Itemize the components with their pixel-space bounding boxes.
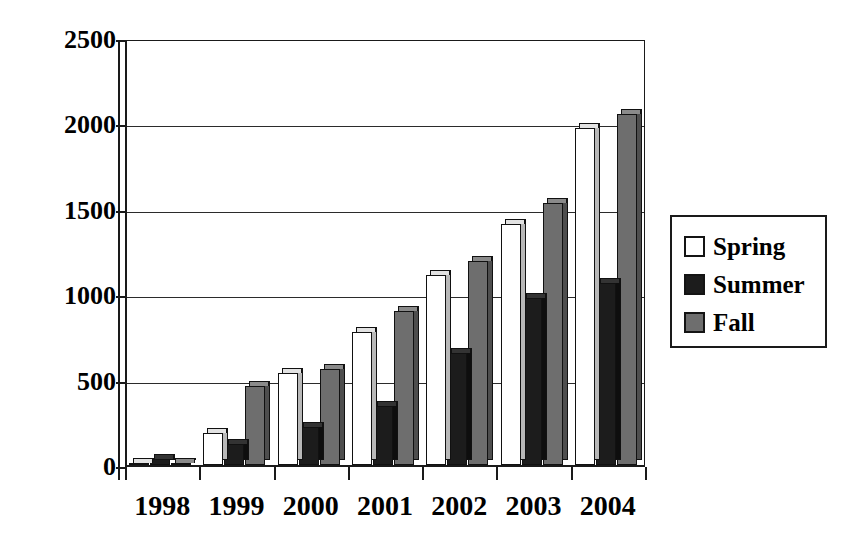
bar-spring-1998 [129,463,149,465]
x-axis-tick-label-1998: 1998 [134,492,190,520]
x-axis-tick-label-2000: 2000 [283,492,339,520]
x-axis-tick-mark [199,467,201,480]
x-axis-tick-mark [125,467,127,480]
bar-side-face [319,422,324,460]
x-axis-tick-label-1999: 1999 [208,492,264,520]
bar-front-face [426,275,446,465]
legend-item-fall: Fall [684,303,825,341]
x-axis-tick-mark [645,467,647,480]
bar-spring-2001 [352,332,372,465]
y-axis-tick-label: 1000 [16,283,116,309]
bar-front-face [575,128,595,465]
bar-front-face [129,463,149,465]
bar-side-face [595,123,600,460]
y-axis-spine [118,40,120,480]
legend-label-fall: Fall [713,310,755,335]
x-axis-tick-label-2003: 2003 [506,492,562,520]
legend-swatch-fall [684,312,705,333]
bar-spring-1999 [203,433,223,465]
bar-side-face [414,306,419,460]
legend-item-summer: Summer [684,265,825,303]
legend-label-spring: Spring [713,234,785,259]
gridline [127,126,644,127]
bar-side-face [616,278,621,460]
plot-area [125,40,645,467]
bar-side-face [542,293,547,460]
x-axis-tick-label-2002: 2002 [431,492,487,520]
bar-spring-2002 [426,275,446,465]
x-axis-tick-mark [496,467,498,480]
bar-side-face [372,327,377,460]
x-axis-tick-label-2004: 2004 [580,492,636,520]
bar-spring-2000 [278,373,298,465]
x-axis-tick-mark [348,467,350,480]
y-axis-tick-label: 1500 [16,198,116,224]
legend-item-spring: Spring [684,227,825,265]
y-axis-tick-label: 2500 [16,27,116,53]
bar-fall-1998 [171,463,191,465]
x-axis-tick-mark [274,467,276,480]
legend-swatch-spring [684,236,705,257]
bar-side-face [563,198,568,460]
bar-front-face [501,224,521,465]
x-axis-tick-mark [422,467,424,480]
bar-front-face [278,373,298,465]
chart-legend: SpringSummerFall [670,215,827,348]
x-axis-tick-label-2001: 2001 [357,492,413,520]
bar-front-face [203,433,223,465]
bar-chart-figure: 05001000150020002500 1998199920002001200… [0,0,862,556]
bar-side-face [340,364,345,461]
y-axis-tick-label: 0 [16,454,116,480]
bar-front-face [171,463,191,465]
bar-side-face [446,270,451,460]
x-axis-tick-mark [571,467,573,480]
bar-side-face [521,219,526,460]
legend-label-summer: Summer [713,272,805,297]
bar-side-face [637,109,642,460]
bar-side-face [298,368,303,460]
bar-side-face [488,256,493,460]
y-axis-tick-label: 2000 [16,112,116,138]
y-axis: 05001000150020002500 [0,0,116,556]
legend-swatch-summer [684,274,705,295]
bar-side-face [467,348,472,460]
bar-spring-2004 [575,128,595,465]
bar-side-face [265,381,270,460]
bar-front-face [352,332,372,465]
y-axis-tick-label: 500 [16,369,116,395]
bar-side-face [393,401,398,460]
bar-spring-2003 [501,224,521,465]
